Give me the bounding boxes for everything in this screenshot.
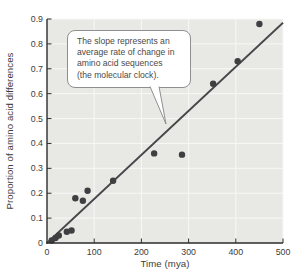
data-point (84, 188, 90, 194)
data-point (234, 58, 240, 64)
data-point (256, 21, 262, 27)
y-tick-label: 0.7 (31, 64, 43, 74)
data-point (151, 150, 157, 156)
data-point (68, 227, 74, 233)
annotation-text-line: amino acid sequences (77, 58, 185, 69)
molecular-clock-figure: 010020030040050000.10.20.30.40.50.60.70.… (0, 0, 303, 279)
x-tick-label: 100 (87, 247, 102, 257)
annotation-text-line: The slope represents an (77, 36, 185, 47)
x-tick-label: 0 (45, 247, 50, 257)
data-point (110, 178, 116, 184)
x-axis-title: Time (mya) (140, 258, 189, 269)
x-tick-label: 200 (134, 247, 149, 257)
annotation-text-line: average rate of change in (77, 47, 185, 58)
y-tick-label: 0.8 (31, 39, 43, 49)
x-tick-label: 500 (276, 247, 291, 257)
annotation-text-line: (the molecular clock). (77, 70, 185, 81)
y-tick-label: 0.6 (31, 89, 43, 99)
y-tick-label: 0.1 (31, 213, 43, 223)
y-tick-label: 0.3 (31, 163, 43, 173)
y-axis-title: Proportion of amino acid differences (4, 52, 15, 209)
y-tick-label: 0.2 (31, 188, 43, 198)
data-point (179, 151, 185, 157)
annotation-callout: The slope represents an average rate of … (67, 30, 191, 88)
y-tick-label: 0 (38, 238, 43, 248)
x-tick-label: 400 (228, 247, 243, 257)
y-tick-label: 0.9 (31, 14, 43, 24)
data-point (80, 197, 86, 203)
x-tick-label: 300 (181, 247, 196, 257)
y-tick-label: 0.4 (31, 138, 43, 148)
data-point (56, 232, 62, 238)
y-tick-label: 0.5 (31, 114, 43, 124)
data-point (210, 81, 216, 87)
data-point (72, 195, 78, 201)
